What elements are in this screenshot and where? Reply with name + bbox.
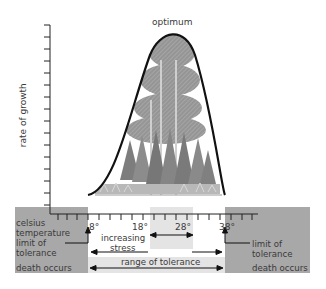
tick-label-38: 38° bbox=[219, 222, 235, 233]
stress-label-line1: increasing bbox=[101, 233, 145, 244]
right-death-label: death occurs bbox=[252, 263, 308, 274]
celsius-label-line1: celsius bbox=[16, 218, 45, 229]
range-of-tolerance-label: range of tolerance bbox=[121, 257, 200, 268]
right-limit-label-line1: limit of bbox=[252, 239, 282, 250]
stress-right-arrow bbox=[192, 250, 222, 255]
y-axis-label: rate of growth bbox=[18, 83, 29, 147]
optimum-label: optimum bbox=[152, 17, 193, 28]
tick-label-8: 8° bbox=[89, 222, 99, 233]
optimum-range-arrow bbox=[150, 233, 193, 238]
celsius-label-line2: temperature bbox=[16, 228, 70, 239]
right-limit-label-line2: tolerance bbox=[252, 249, 293, 260]
left-limit-label-line2: tolerance bbox=[16, 248, 57, 259]
stress-label-line2: stress bbox=[110, 243, 135, 254]
tick-label-28: 28° bbox=[175, 222, 191, 233]
left-death-label: death occurs bbox=[16, 263, 72, 274]
left-limit-label-line1: limit of bbox=[16, 238, 46, 249]
tick-label-18: 18° bbox=[132, 222, 148, 233]
